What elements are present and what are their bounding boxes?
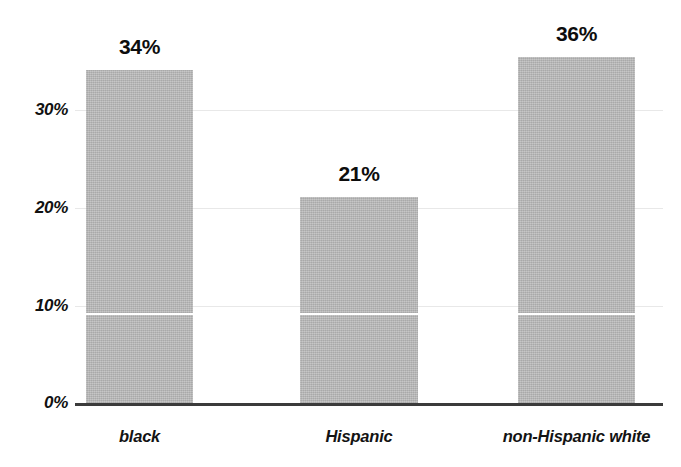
y-tick-30-label: 30%: [0, 101, 68, 118]
value-label-non-hispanic-white: 36%: [518, 23, 635, 44]
bar-black: [86, 70, 193, 404]
x-axis-line: [75, 403, 663, 406]
category-label-black: black: [86, 428, 193, 445]
value-label-hispanic: 21%: [300, 163, 418, 184]
plot-area: 30% 20% 10% 0% 34% 21% 36% black Hispani…: [0, 0, 681, 467]
y-tick-30: 30%: [0, 101, 68, 119]
y-tick-0-label: 0%: [0, 394, 68, 411]
y-tick-10: 10%: [0, 297, 68, 315]
y-tick-0: 0%: [0, 394, 68, 412]
y-tick-20-label: 20%: [0, 199, 68, 216]
y-tick-10-label: 10%: [0, 297, 68, 314]
y-tick-20: 20%: [0, 199, 68, 217]
category-label-non-hispanic-white: non-Hispanic white: [495, 428, 658, 445]
white-rule: [75, 313, 663, 315]
bar-hispanic: [300, 197, 418, 404]
category-label-hispanic: Hispanic: [290, 428, 428, 445]
value-label-black: 34%: [86, 36, 193, 57]
bar-chart: 30% 20% 10% 0% 34% 21% 36% black Hispani…: [0, 0, 681, 467]
bar-non-hispanic-white: [518, 57, 635, 404]
